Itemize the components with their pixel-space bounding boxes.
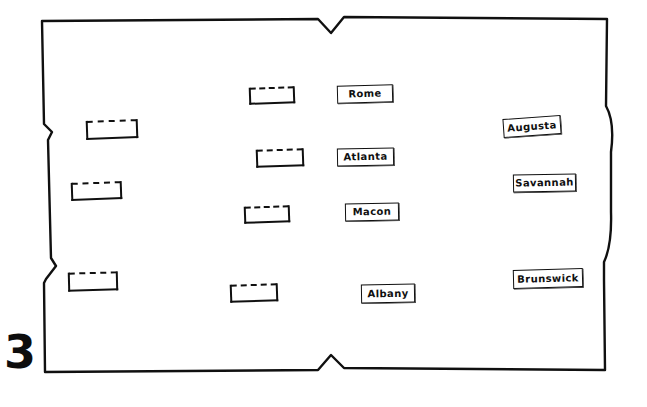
blank-box-northwest[interactable] (86, 119, 139, 140)
city-label-text: Albany (367, 287, 408, 299)
city-label-macon[interactable]: Macon (345, 203, 399, 222)
worksheet-page: 3 Rome Augusta Atlanta Savannah Macon Br… (0, 0, 647, 407)
city-label-text: Augusta (507, 119, 557, 133)
city-label-text: Rome (348, 88, 382, 100)
georgia-state-outline (0, 0, 647, 407)
city-label-text: Brunswick (517, 272, 579, 285)
blank-box-south-central[interactable] (230, 283, 279, 303)
blank-box-west[interactable] (71, 181, 123, 201)
city-label-albany[interactable]: Albany (361, 284, 415, 304)
city-label-text: Macon (353, 206, 392, 218)
blank-box-north-central[interactable] (249, 86, 296, 105)
blank-box-mid-central[interactable] (244, 205, 291, 224)
city-label-augusta[interactable]: Augusta (502, 115, 561, 138)
city-label-atlanta[interactable]: Atlanta (337, 148, 394, 167)
city-label-text: Atlanta (343, 151, 387, 163)
city-label-text: Savannah (515, 176, 574, 188)
page-number: 3 (4, 329, 35, 375)
city-label-rome[interactable]: Rome (337, 84, 393, 103)
city-label-brunswick[interactable]: Brunswick (513, 268, 583, 289)
city-label-savannah[interactable]: Savannah (513, 173, 576, 192)
blank-box-central[interactable] (256, 148, 305, 168)
blank-box-southwest[interactable] (68, 271, 118, 291)
